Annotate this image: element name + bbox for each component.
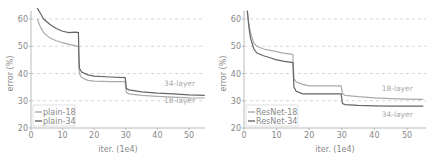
y-tick-label: 40 — [18, 70, 28, 79]
legend-label: plain-34 — [43, 117, 76, 126]
x-tick-label: 50 — [184, 131, 194, 140]
x-tick-label: 50 — [402, 131, 412, 140]
x-tick-label: 0 — [28, 131, 33, 140]
x-tick-label: 10 — [272, 131, 282, 140]
legend-label: ResNet-18 — [256, 108, 297, 117]
y-tick-label: 20 — [18, 124, 28, 133]
x-axis-label: iter. (1e4) — [315, 145, 354, 154]
training-error-charts: 203040506001020304050iter. (1e4)error (%… — [0, 0, 437, 157]
x-tick-label: 10 — [58, 131, 68, 140]
chart-panel-1: 203040506001020304050iter. (1e4)error (%… — [6, 8, 205, 154]
y-tick-label: 30 — [18, 97, 28, 106]
y-tick-label: 40 — [231, 70, 241, 79]
x-axis-label: iter. (1e4) — [98, 145, 137, 154]
y-tick-label: 60 — [18, 15, 28, 24]
layer-annotation: 34-layer — [164, 79, 196, 88]
y-axis-label: error (%) — [219, 56, 228, 92]
y-tick-label: 50 — [231, 42, 241, 51]
y-axis-label: error (%) — [6, 56, 15, 92]
x-tick-label: 40 — [369, 131, 379, 140]
legend-label: plain-18 — [43, 108, 76, 117]
layer-annotation: 18-layer — [382, 84, 414, 93]
x-tick-label: 40 — [152, 131, 162, 140]
y-tick-label: 60 — [231, 15, 241, 24]
legend-label: ResNet-34 — [256, 117, 297, 126]
x-tick-label: 30 — [121, 131, 131, 140]
y-tick-label: 50 — [18, 42, 28, 51]
x-tick-label: 30 — [337, 131, 347, 140]
x-tick-label: 20 — [304, 131, 314, 140]
chart-panel-2: 203040506001020304050iter. (1e4)error (%… — [219, 11, 426, 154]
y-tick-label: 30 — [231, 97, 241, 106]
legend: plain-18plain-34 — [33, 105, 76, 126]
legend: ResNet-18ResNet-34 — [246, 105, 298, 126]
layer-annotation: 34-layer — [382, 110, 414, 119]
y-tick-label: 20 — [231, 124, 241, 133]
x-tick-label: 20 — [89, 131, 99, 140]
x-tick-label: 0 — [241, 131, 246, 140]
